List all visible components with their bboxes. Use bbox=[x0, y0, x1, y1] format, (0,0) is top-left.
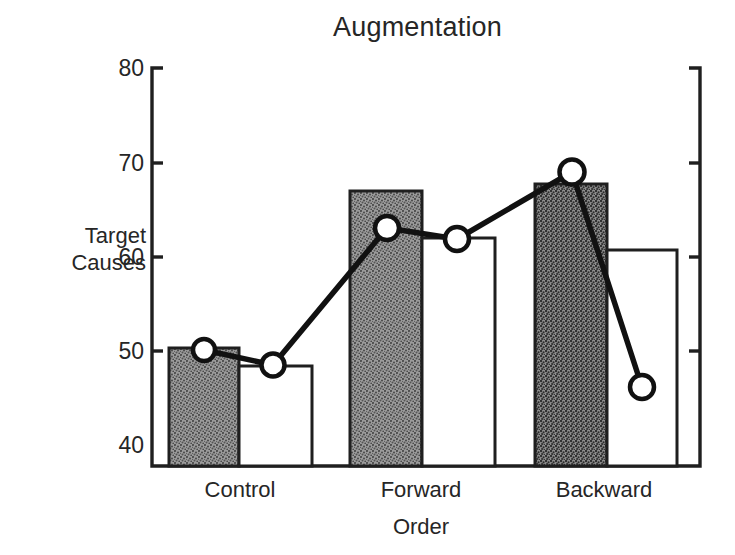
x-axis-category-label-forward: Forward bbox=[321, 477, 521, 503]
data-point-marker bbox=[445, 227, 469, 251]
y-axis-label: Target Causes bbox=[0, 222, 146, 276]
bar-control-open bbox=[239, 366, 312, 466]
y-axis-tick-label-80: 80 bbox=[84, 55, 144, 82]
bar-control-shaded bbox=[169, 348, 239, 466]
x-axis-category-label-backward: Backward bbox=[504, 477, 704, 503]
chart-plot-area bbox=[0, 0, 735, 555]
x-axis-category-label-control: Control bbox=[140, 477, 340, 503]
bar-backward-shaded bbox=[535, 184, 607, 466]
bar-backward-open bbox=[607, 250, 677, 466]
data-point-marker bbox=[560, 160, 585, 185]
chart-title: Augmentation bbox=[333, 12, 502, 43]
chart-figure: Augmentation 80 70 60 50 40 Target Cause… bbox=[0, 0, 735, 555]
bar-forward-open bbox=[422, 238, 495, 466]
y-axis-tick-label-50: 50 bbox=[84, 338, 144, 365]
data-point-marker bbox=[375, 216, 399, 240]
data-point-marker bbox=[630, 375, 654, 399]
bar-group-control bbox=[169, 348, 312, 466]
data-point-marker bbox=[193, 339, 215, 361]
data-point-marker bbox=[262, 354, 285, 377]
y-axis-label-line2: Causes bbox=[0, 249, 146, 276]
bar-group-backward bbox=[535, 184, 677, 466]
x-axis-label: Order bbox=[321, 514, 521, 540]
y-axis-tick-label-40: 40 bbox=[84, 432, 144, 459]
y-axis-tick-label-70: 70 bbox=[84, 150, 144, 177]
y-axis-label-line1: Target bbox=[0, 222, 146, 249]
